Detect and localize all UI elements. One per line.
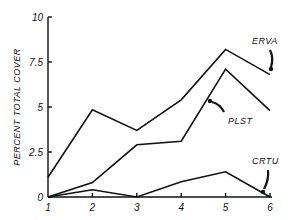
x-tick-label: 6 xyxy=(267,202,273,213)
series-line-crtu xyxy=(48,172,270,197)
x-tick-label: 1 xyxy=(45,202,51,213)
axes: 02.557.510123456 xyxy=(28,12,273,214)
series-label-plst: PLST xyxy=(228,116,254,126)
x-tick-label: 2 xyxy=(89,202,96,213)
line-chart: 02.557.510123456 ERVAPLSTCRTU PERCENT TO… xyxy=(0,0,292,220)
y-tick-label: 0 xyxy=(37,192,43,203)
y-tick-label: 10 xyxy=(32,12,44,23)
series-line-erva xyxy=(48,49,270,177)
arrow-icon xyxy=(270,50,272,67)
y-tick-label: 7.5 xyxy=(29,57,43,68)
arrow-icon xyxy=(264,170,268,189)
series-label-crtu: CRTU xyxy=(252,156,279,166)
x-tick-label: 3 xyxy=(134,202,140,213)
x-tick-label: 4 xyxy=(178,202,184,213)
arrow-icon xyxy=(212,102,224,112)
y-tick-label: 5 xyxy=(37,102,43,113)
x-tick-label: 5 xyxy=(223,202,229,213)
y-tick-label: 2.5 xyxy=(28,147,43,158)
arrow-head-icon xyxy=(208,99,212,103)
arrow-head-icon xyxy=(261,190,265,194)
y-axis-label: PERCENT TOTAL COVER xyxy=(12,48,22,166)
series-label-erva: ERVA xyxy=(252,36,278,46)
arrow-head-icon xyxy=(269,67,273,71)
